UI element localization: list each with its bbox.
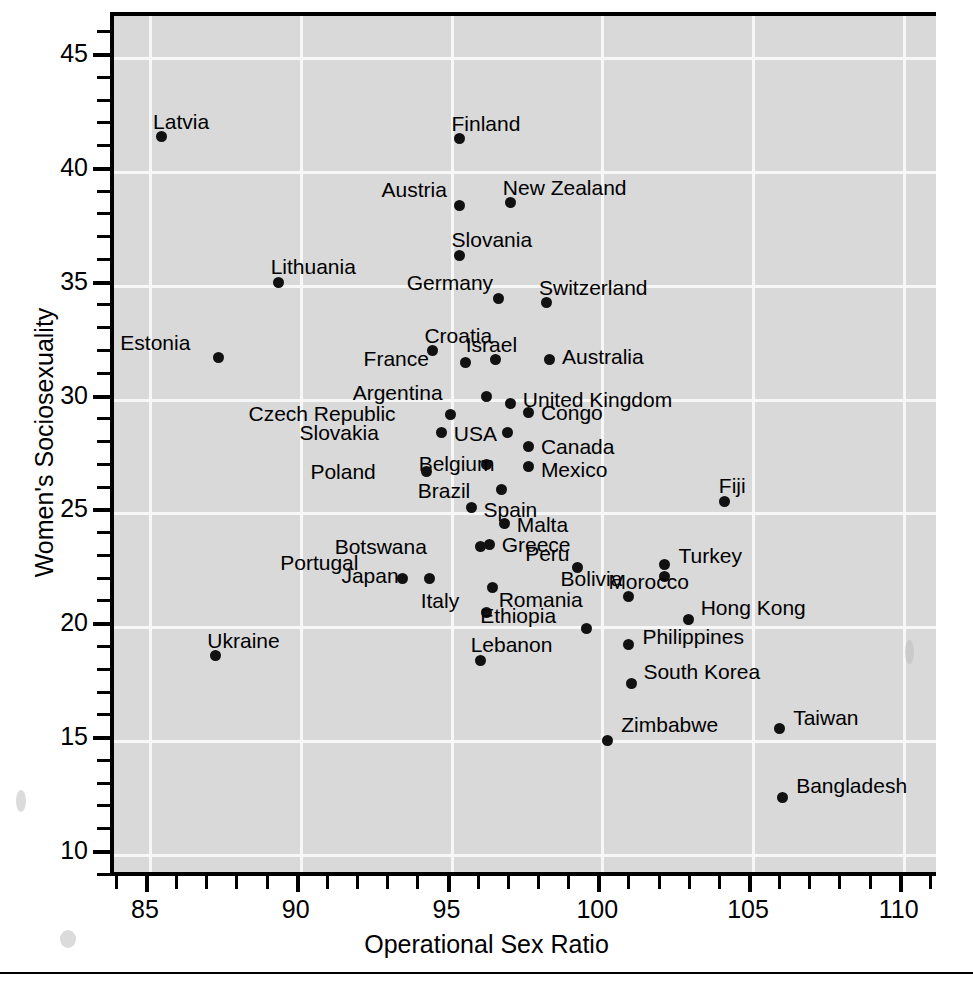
x-tick-label: 110 [879, 895, 919, 924]
y-tick-minor [97, 531, 110, 534]
x-tick-minor [115, 876, 118, 889]
y-tick-minor [97, 645, 110, 648]
data-point [213, 352, 224, 363]
y-tick-major [93, 281, 110, 285]
data-point [475, 541, 486, 552]
data-point-label: New Zealand [503, 177, 627, 198]
data-point-label: Bangladesh [796, 775, 907, 796]
gridline-horizontal [114, 57, 936, 60]
data-point-label: Slovania [452, 229, 533, 250]
data-point-label: Ukraine [207, 630, 279, 651]
gridline-horizontal [114, 285, 936, 288]
data-point [683, 614, 694, 625]
data-point-label: Austria [382, 179, 447, 200]
data-point [719, 496, 730, 507]
x-tick-minor [808, 876, 811, 889]
data-point [496, 484, 507, 495]
y-tick-major [93, 53, 110, 57]
data-point-label: Canada [541, 436, 615, 457]
y-tick-minor [97, 303, 110, 306]
y-tick-minor [97, 76, 110, 79]
data-point-label: Hong Kong [701, 597, 806, 618]
x-tick-label: 95 [433, 895, 461, 924]
y-tick-minor [97, 759, 110, 762]
y-tick-minor [97, 599, 110, 602]
y-tick-minor [97, 99, 110, 102]
x-tick-minor [718, 876, 721, 889]
data-point-label: Latvia [153, 111, 209, 132]
gridline-vertical [149, 16, 152, 876]
data-point [505, 197, 516, 208]
y-tick-minor [97, 827, 110, 830]
data-point [424, 573, 435, 584]
data-point [602, 735, 613, 746]
y-tick-minor [97, 804, 110, 807]
y-tick-minor [97, 691, 110, 694]
x-tick-minor [688, 876, 691, 889]
data-point [626, 678, 637, 689]
data-point [623, 639, 634, 650]
data-point-label: Mexico [541, 459, 608, 480]
plot-frame: LatviaFinlandNew ZealandAustriaSlovaniaL… [110, 12, 936, 876]
data-point [541, 297, 552, 308]
data-point [436, 427, 447, 438]
x-tick-minor [838, 876, 841, 889]
data-point [454, 250, 465, 261]
x-tick-minor [567, 876, 570, 889]
data-point [421, 466, 432, 477]
data-point [499, 518, 510, 529]
y-tick-minor [97, 212, 110, 215]
y-axis-title: Women's Sociosexuality [30, 43, 59, 843]
y-tick-minor [97, 190, 110, 193]
data-point [493, 293, 504, 304]
data-point [487, 582, 498, 593]
x-tick-label: 100 [576, 895, 618, 924]
data-point-label: France [364, 348, 429, 369]
y-tick-minor [97, 144, 110, 147]
x-tick-minor [205, 876, 208, 889]
x-tick-minor [778, 876, 781, 889]
data-point-label: Switzerland [539, 277, 648, 298]
chart-page: LatviaFinlandNew ZealandAustriaSlovaniaL… [0, 0, 973, 993]
data-point [445, 409, 456, 420]
x-tick-label: 90 [282, 895, 310, 924]
data-point [505, 398, 516, 409]
y-tick-minor [97, 417, 110, 420]
data-point-label: Ethiopia [480, 605, 556, 626]
y-tick-major [93, 850, 110, 854]
y-tick-minor [97, 554, 110, 557]
scan-artifact [16, 790, 26, 812]
x-tick-minor [326, 876, 329, 889]
plot-area: LatviaFinlandNew ZealandAustriaSlovaniaL… [114, 16, 936, 876]
gridline-vertical [903, 16, 906, 876]
x-tick-minor [175, 876, 178, 889]
x-tick-minor [507, 876, 510, 889]
y-tick-minor [97, 713, 110, 716]
data-point-label: Lithuania [271, 256, 356, 277]
x-tick-minor [537, 876, 540, 889]
data-point [156, 131, 167, 142]
y-tick-minor [97, 258, 110, 261]
data-point [777, 792, 788, 803]
y-tick-major [93, 622, 110, 626]
data-point [210, 650, 221, 661]
y-tick-minor [97, 440, 110, 443]
x-tick-minor [416, 876, 419, 889]
data-point [490, 354, 501, 365]
data-point [475, 655, 486, 666]
data-point [454, 200, 465, 211]
x-tick-minor [477, 876, 480, 889]
y-tick-minor [97, 873, 110, 876]
gridline-vertical [300, 16, 303, 876]
data-point-label: Poland [310, 461, 375, 482]
y-tick-minor [97, 326, 110, 329]
data-point-label: USA [454, 423, 497, 444]
data-point [544, 354, 555, 365]
data-point [774, 723, 785, 734]
y-tick-minor [97, 782, 110, 785]
y-tick-minor [97, 30, 110, 33]
y-tick-minor [97, 349, 110, 352]
data-point-label: Estonia [120, 332, 190, 353]
x-tick-minor [869, 876, 872, 889]
data-point [523, 441, 534, 452]
